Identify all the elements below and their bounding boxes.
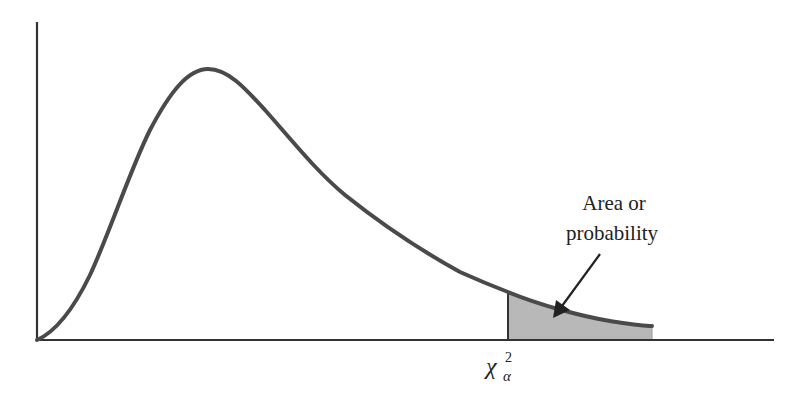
svg-text:2: 2 (505, 350, 512, 365)
annotation-arrow-icon (553, 254, 600, 318)
density-curve (37, 69, 652, 340)
svg-text:α: α (503, 368, 512, 384)
annotation-line2: probability (566, 221, 659, 245)
critical-value-label: χ α 2 (484, 350, 512, 384)
chi-square-chart: Area or probability χ α 2 (0, 0, 802, 403)
svg-text:χ: χ (484, 353, 498, 379)
annotation-line1: Area or (582, 191, 646, 215)
